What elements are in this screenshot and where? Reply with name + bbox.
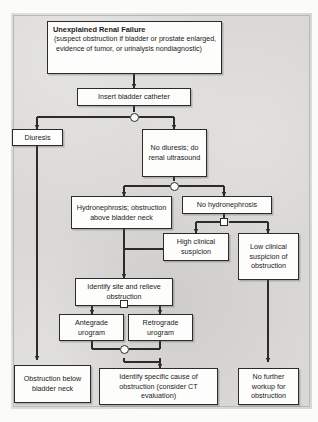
- node-insert-catheter-label: Insert bladder catheter: [98, 92, 170, 102]
- node-identify-site-label: Identify site and relieve obstruction: [79, 282, 169, 301]
- node-antegrade-urogram-label: Antegrade urogram: [63, 318, 120, 337]
- node-start-heading: Unexplained Renal Failure: [53, 25, 217, 35]
- node-identify-specific-cause: Identify specific cause of obstruction (…: [99, 368, 218, 405]
- node-hydronephrosis: Hydronephrosis; obstruction above bladde…: [71, 196, 172, 229]
- junction-urogram-merge: [120, 345, 129, 354]
- node-start: Unexplained Renal Failure (suspect obstr…: [47, 21, 222, 74]
- node-low-suspicion-label: Low clinical suspicion of obstruction: [242, 242, 295, 271]
- node-high-suspicion-label: High clinical suspicion: [167, 237, 225, 256]
- junction-catheter-split: [130, 113, 139, 122]
- node-diuresis-label: Diuresis: [25, 133, 51, 143]
- junction-ultrasound-split: [170, 182, 179, 191]
- node-diuresis: Diuresis: [12, 129, 63, 146]
- node-insert-catheter: Insert bladder catheter: [77, 88, 191, 106]
- node-obstruction-below-bladder-neck: Obstruction below bladder neck: [14, 365, 91, 403]
- node-no-hydronephrosis-label: No hydronephrosis: [197, 200, 257, 210]
- node-retrograde-urogram: Retrograde urogram: [128, 314, 193, 341]
- node-low-suspicion: Low clinical suspicion of obstruction: [238, 233, 299, 280]
- node-no-further-workup-label: No further workup for obstruction: [242, 372, 295, 401]
- node-start-detail: (suspect obstruction if bladder or prost…: [53, 35, 217, 54]
- node-antegrade-urogram: Antegrade urogram: [59, 314, 124, 341]
- node-hydronephrosis-label: Hydronephrosis; obstruction above bladde…: [75, 203, 168, 222]
- node-no-diuresis: No diuresis; do renal ultrasound: [142, 129, 207, 177]
- node-high-suspicion: High clinical suspicion: [163, 233, 229, 261]
- node-no-hydronephrosis: No hydronephrosis: [182, 196, 272, 214]
- junction-hydronephrosis-split: [220, 218, 228, 226]
- node-retrograde-urogram-label: Retrograde urogram: [132, 318, 189, 337]
- node-no-diuresis-label: No diuresis; do renal ultrasound: [146, 143, 203, 162]
- junction-urogram-split: [120, 300, 128, 308]
- node-obstruction-below-bladder-neck-label: Obstruction below bladder neck: [18, 374, 87, 393]
- flowchart-page: Unexplained Renal Failure (suspect obstr…: [0, 0, 318, 422]
- node-identify-specific-cause-label: Identify specific cause of obstruction (…: [103, 372, 214, 401]
- node-no-further-workup: No further workup for obstruction: [238, 368, 299, 405]
